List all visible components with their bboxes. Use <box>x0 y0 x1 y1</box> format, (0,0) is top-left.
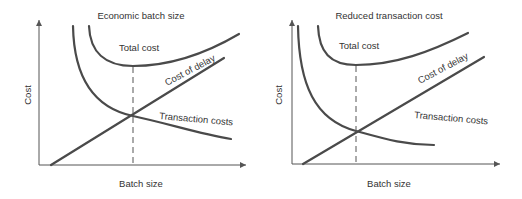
cost-of-delay-line <box>303 57 484 164</box>
y-axis-label: Cost <box>273 85 284 105</box>
y-axis-label: Cost <box>22 85 33 105</box>
total-cost-label: Total cost <box>119 42 159 53</box>
cost-of-delay-line <box>51 58 224 165</box>
panel-title: Economic batch size <box>97 10 184 21</box>
panel-reduced-transaction-cost: Reduced transaction cost Cost Batch size… <box>273 10 500 189</box>
x-axis-label: Batch size <box>119 178 163 189</box>
diagram-canvas: Economic batch size Cost Batch size Tota… <box>0 0 522 199</box>
total-cost-curve <box>89 26 239 66</box>
x-axis-label: Batch size <box>367 178 411 189</box>
panel-title: Reduced transaction cost <box>335 10 443 21</box>
panel-economic-batch-size: Economic batch size Cost Batch size Tota… <box>22 10 246 189</box>
transaction-costs-label: Transaction costs <box>414 109 489 126</box>
total-cost-label: Total cost <box>339 40 379 51</box>
